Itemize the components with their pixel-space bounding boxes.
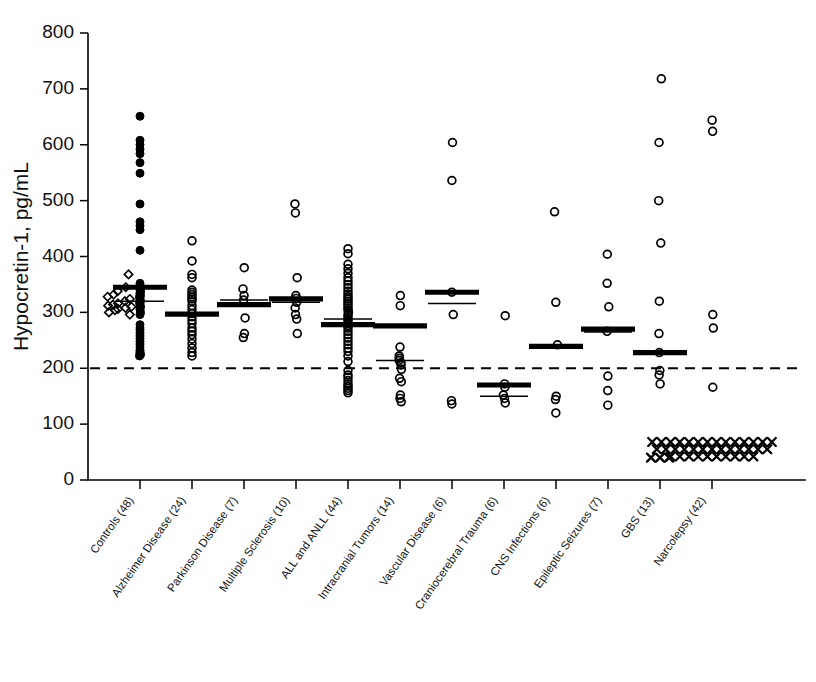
- data-point: [136, 200, 144, 208]
- data-point: [501, 312, 509, 320]
- data-point: [709, 324, 717, 332]
- data-point: [136, 150, 144, 158]
- y-tick-label: 300: [42, 300, 74, 321]
- series-epileptic-seizures----: [581, 250, 635, 409]
- data-point: [136, 352, 144, 360]
- data-point: [136, 246, 144, 254]
- data-point: [344, 250, 352, 258]
- series-parkinson-disease----: [217, 264, 271, 342]
- data-point: [136, 226, 144, 234]
- data-point: [396, 302, 404, 310]
- data-point: [709, 127, 717, 135]
- series-craniocerebral-trauma----: [477, 312, 531, 407]
- y-tick-label: 400: [42, 245, 74, 266]
- data-point: [292, 209, 300, 217]
- x-category-label: Narcolepsy (42): [651, 494, 707, 568]
- data-point: [136, 159, 144, 167]
- data-point: [136, 311, 144, 319]
- data-point-x: [647, 454, 655, 462]
- data-point-x: [656, 454, 664, 462]
- axis-lines: [88, 33, 806, 480]
- data-point: [552, 298, 560, 306]
- data-point: [291, 200, 299, 208]
- data-point: [709, 311, 717, 319]
- y-tick-label: 700: [42, 77, 74, 98]
- data-point: [604, 387, 612, 395]
- data-point: [604, 401, 612, 409]
- data-point: [136, 112, 144, 120]
- data-point: [136, 169, 144, 177]
- data-point: [603, 250, 611, 258]
- series-gbs-----: [633, 75, 687, 462]
- data-point: [293, 274, 301, 282]
- series-multiple-sclerosis-----: [269, 200, 323, 337]
- series-intracranial-tumors-----: [373, 292, 427, 406]
- data-point: [396, 292, 404, 300]
- data-point-diamond: [124, 270, 132, 278]
- data-point: [605, 303, 613, 311]
- data-point: [188, 257, 196, 265]
- y-tick-label: 0: [63, 468, 74, 489]
- data-point: [655, 330, 663, 338]
- data-point: [656, 380, 664, 388]
- data-point: [448, 177, 456, 185]
- x-category-label: GBS (13): [618, 494, 655, 540]
- data-point: [655, 297, 663, 305]
- series-narcolepsy-----: [648, 116, 776, 460]
- data-point: [657, 75, 665, 83]
- y-tick-label: 800: [42, 21, 74, 42]
- x-category-label: Controls (48): [88, 494, 136, 555]
- series-cns-infections----: [529, 208, 583, 417]
- data-point: [657, 239, 665, 247]
- data-point: [604, 372, 612, 380]
- data-point: [449, 139, 457, 147]
- x-category-label: CNS Infections (6): [488, 494, 552, 578]
- data-point: [708, 116, 716, 124]
- y-tick-label: 500: [42, 189, 74, 210]
- y-tick-label: 200: [42, 356, 74, 377]
- data-point: [188, 237, 196, 245]
- y-tick-label: 600: [42, 133, 74, 154]
- data-point: [241, 314, 249, 322]
- data-point: [552, 409, 560, 417]
- data-point: [709, 383, 717, 391]
- data-point: [551, 208, 559, 216]
- hypocretin-scatter-figure: 0100200300400500600700800Hypocretin-1, p…: [0, 0, 816, 682]
- data-point: [449, 311, 457, 319]
- data-point: [655, 197, 663, 205]
- series-controls-----: [103, 112, 167, 360]
- data-point: [344, 358, 352, 366]
- y-tick-label: 100: [42, 412, 74, 433]
- y-axis-label: Hypocretin-1, pg/mL: [9, 162, 32, 351]
- data-point: [603, 279, 611, 287]
- series-alzheimer-disease-----: [165, 237, 219, 360]
- chart-canvas: 0100200300400500600700800Hypocretin-1, p…: [0, 0, 816, 682]
- series-all-and-anll-----: [321, 245, 375, 397]
- data-point: [293, 330, 301, 338]
- data-point: [655, 139, 663, 147]
- data-point: [396, 343, 404, 351]
- data-point: [240, 264, 248, 272]
